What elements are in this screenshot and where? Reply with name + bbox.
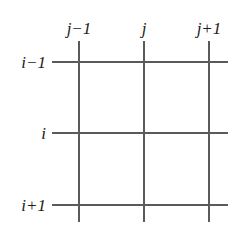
horizontal-grid-line-i — [52, 132, 228, 134]
horizontal-grid-line-i-minus-1 — [52, 61, 228, 63]
row-label-i-plus-1: i+1 — [0, 197, 46, 214]
row-label-i: i — [0, 125, 46, 142]
column-label-j-plus-1: j+1 — [197, 20, 222, 37]
horizontal-grid-line-i-plus-1 — [52, 204, 228, 206]
column-label-j-minus-1: j−1 — [67, 20, 92, 37]
grid-diagram: j−1 j j+1 i−1 i i+1 — [0, 0, 244, 234]
row-label-i-minus-1: i−1 — [0, 54, 46, 71]
column-label-j: j — [142, 20, 147, 37]
